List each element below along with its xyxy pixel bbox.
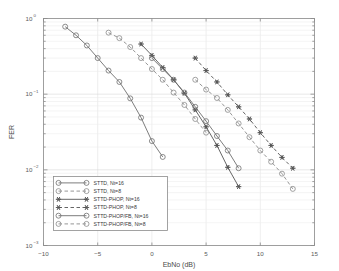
legend-label: STTD, Nt=16 (94, 180, 125, 186)
y-tick-exponent: −2 (34, 164, 40, 169)
x-tick-label: 10 (257, 250, 264, 257)
x-axis-title: EbNo (dB) (163, 261, 196, 269)
legend-label: STTD-PHOP/FB, Nt=8 (94, 221, 146, 227)
y-tick-exponent: −1 (34, 89, 40, 94)
y-tick-exponent: −3 (34, 240, 40, 245)
x-tick-label: −10 (38, 250, 49, 257)
y-tick-label: 10 (26, 166, 33, 173)
legend[interactable]: STTD, Nt=16STTD, Nt=8STTD-PHOP, Nt=16STT… (54, 177, 168, 231)
legend-label: STTD, Nt=8 (94, 188, 122, 194)
x-tick-label: 5 (204, 250, 208, 257)
y-axis-title: FER (8, 125, 15, 139)
x-tick-label: 15 (311, 250, 318, 257)
legend-label: STTD-PHOP, Nt=8 (94, 204, 137, 210)
y-tick-label: 10 (26, 15, 33, 22)
legend-label: STTD-PHOP/FB, Nt=16 (94, 213, 149, 219)
legend-label: STTD-PHOP, Nt=16 (94, 196, 140, 202)
x-tick-label: 0 (150, 250, 154, 257)
y-tick-label: 10 (26, 242, 33, 249)
y-tick-label: 10 (26, 90, 33, 97)
fer-vs-ebno-chart: −10−505101510010−110−210−3 EbNo (dB)FER … (0, 0, 339, 271)
x-tick-label: −5 (94, 250, 102, 257)
plot-background (0, 0, 339, 271)
figure-container: −10−505101510010−110−210−3 EbNo (dB)FER … (0, 0, 339, 271)
